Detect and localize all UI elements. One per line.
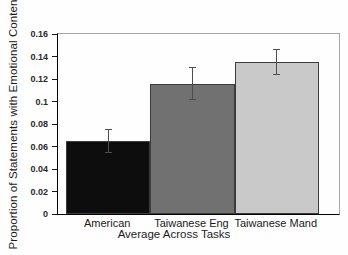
y-tick-label: 0.12	[8, 73, 48, 85]
y-tick-label: 0.14	[8, 51, 48, 63]
y-tick-label: 0.16	[8, 28, 48, 40]
y-tick-label: 0.06	[8, 141, 48, 153]
error-bar-cap	[189, 99, 196, 100]
y-tick-label: 0.04	[8, 163, 48, 175]
bar-chart-figure: Proportion of Statements with Emotional …	[0, 0, 348, 255]
y-tick-mark	[52, 214, 57, 215]
y-tick-label: 0.08	[8, 118, 48, 130]
y-tick-mark	[52, 34, 57, 35]
y-tick-mark	[52, 79, 57, 80]
error-bar-cap	[105, 129, 112, 130]
x-axis-title: Average Across Tasks	[0, 228, 348, 240]
y-tick-mark	[52, 146, 57, 147]
plot-area: 0.160.140.120.10.080.060.040.020	[57, 33, 340, 215]
bar-taiwanese-mand	[235, 62, 319, 214]
y-tick-mark	[52, 169, 57, 170]
bar-taiwanese-eng	[150, 84, 234, 215]
error-bar	[276, 50, 277, 75]
y-tick-mark	[52, 56, 57, 57]
error-bar-cap	[273, 49, 280, 50]
error-bar-cap	[273, 74, 280, 75]
y-tick-label: 0.1	[8, 96, 48, 108]
y-tick-mark	[52, 191, 57, 192]
error-bar	[108, 130, 109, 153]
error-bar	[192, 68, 193, 100]
error-bar-cap	[189, 67, 196, 68]
y-tick-label: 0.02	[8, 186, 48, 198]
y-tick-label: 0	[8, 208, 48, 220]
y-tick-mark	[52, 101, 57, 102]
x-category-label: Taiwanese Mand	[221, 217, 331, 229]
y-tick-mark	[52, 124, 57, 125]
error-bar-cap	[105, 152, 112, 153]
